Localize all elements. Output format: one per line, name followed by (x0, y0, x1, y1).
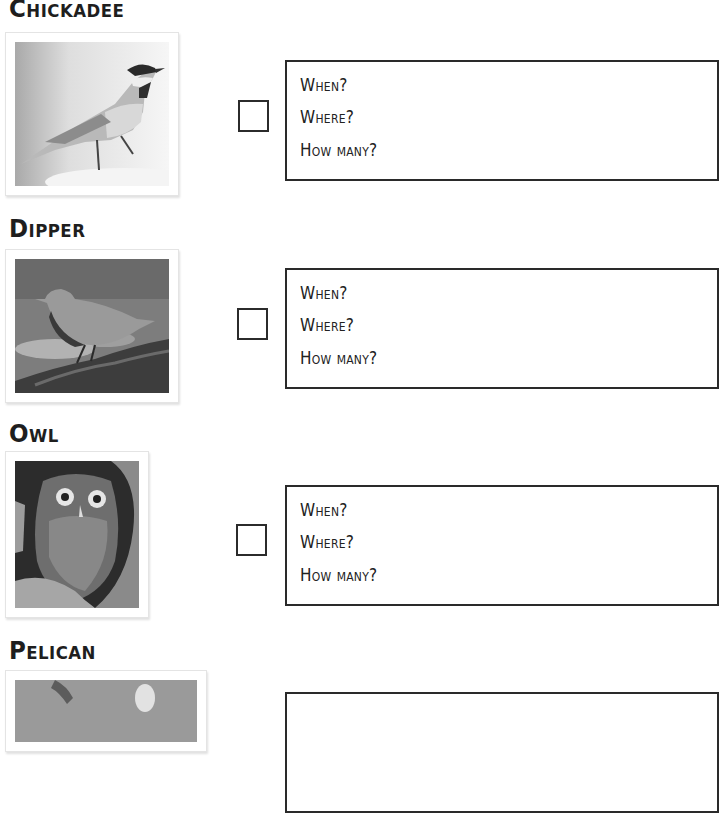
seen-checkbox[interactable] (237, 308, 268, 340)
how-many-prompt: How many? (300, 565, 377, 585)
where-prompt: Where? (300, 107, 354, 127)
how-many-prompt: How many? (300, 348, 377, 368)
sighting-record-box[interactable]: When? Where? How many? (285, 60, 719, 181)
pelican-photo-icon (15, 680, 197, 742)
dipper-photo-icon (15, 259, 169, 393)
where-prompt: Where? (300, 532, 354, 552)
where-prompt: Where? (300, 315, 354, 335)
when-prompt: When? (300, 75, 348, 95)
seen-checkbox[interactable] (238, 100, 269, 132)
sighting-record-box[interactable]: When? Where? How many? (285, 268, 719, 389)
sighting-record-box[interactable] (285, 692, 719, 813)
bird-photo-frame (5, 32, 179, 196)
bird-title: Owl (9, 421, 59, 446)
seen-checkbox[interactable] (236, 524, 267, 556)
sighting-record-box[interactable]: When? Where? How many? (285, 485, 719, 606)
owl-photo-icon (15, 461, 139, 608)
bird-title: Chickadee (9, 0, 124, 21)
bird-photo-frame (5, 670, 207, 752)
when-prompt: When? (300, 283, 348, 303)
chickadee-photo-icon (15, 42, 169, 186)
bird-title: Dipper (9, 216, 85, 241)
bird-photo-frame (5, 451, 149, 618)
how-many-prompt: How many? (300, 140, 377, 160)
when-prompt: When? (300, 500, 348, 520)
bird-photo-frame (5, 249, 179, 403)
bird-title: Pelican (9, 638, 96, 663)
